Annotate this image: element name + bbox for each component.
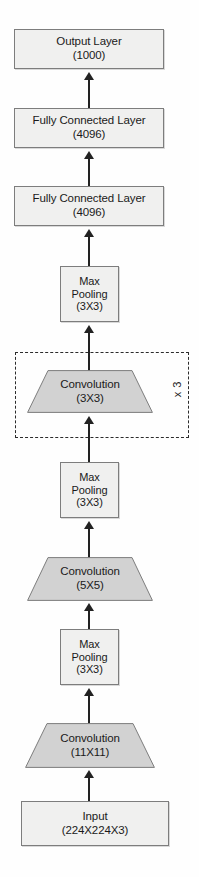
node-max-pooling-1-line1: Max xyxy=(79,638,99,651)
node-max-pooling-2-line2: Pooling xyxy=(72,484,108,497)
node-convolution-3x3: Convolution (3X3) xyxy=(27,370,153,413)
arrow-pool2-to-conv3 xyxy=(83,416,95,466)
arrow-input-to-conv1 xyxy=(83,770,95,802)
node-max-pooling-2: Max Pooling (3X3) xyxy=(60,462,119,518)
node-max-pooling-1: Max Pooling (3X3) xyxy=(60,629,119,685)
node-convolution-5x5-line1: Convolution xyxy=(60,565,120,579)
node-fully-connected-2: Fully Connected Layer (4096) xyxy=(14,108,164,148)
node-convolution-11x11: Convolution (11X11) xyxy=(25,723,155,768)
node-fully-connected-1-line2: (4096) xyxy=(73,206,106,220)
node-convolution-5x5: Convolution (5X5) xyxy=(27,557,153,601)
node-fully-connected-2-line1: Fully Connected Layer xyxy=(33,114,146,128)
node-convolution-11x11-line2: (11X11) xyxy=(71,746,110,760)
arrow-conv2-to-pool2 xyxy=(83,521,95,558)
node-fully-connected-1-line1: Fully Connected Layer xyxy=(33,192,146,206)
arrow-stem xyxy=(88,695,90,724)
arrow-pool3-to-fc1 xyxy=(83,229,95,266)
node-output-layer-line1: Output Layer xyxy=(56,35,121,49)
cnn-architecture-diagram: Output Layer (1000) Fully Connected Laye… xyxy=(0,0,199,877)
arrow-stem xyxy=(88,332,90,371)
arrow-stem xyxy=(88,79,90,108)
node-convolution-5x5-line2: (5X5) xyxy=(76,579,104,593)
arrow-conv1-to-pool1 xyxy=(83,688,95,724)
node-output-layer: Output Layer (1000) xyxy=(14,29,164,69)
node-max-pooling-1-line3: (3X3) xyxy=(76,663,102,676)
node-fully-connected-2-line2: (4096) xyxy=(73,128,106,142)
arrow-fc2-to-output xyxy=(83,72,95,108)
node-convolution-11x11-line1: Convolution xyxy=(60,732,120,746)
node-max-pooling-2-line3: (3X3) xyxy=(76,496,102,509)
arrow-stem xyxy=(88,423,90,466)
node-max-pooling-1-line2: Pooling xyxy=(72,651,108,664)
arrow-conv3-to-pool3 xyxy=(83,325,95,371)
node-max-pooling-3-line2: Pooling xyxy=(72,288,108,301)
node-max-pooling-3-line3: (3X3) xyxy=(76,300,102,313)
node-input-line2: (224X224X3) xyxy=(62,824,129,838)
node-input: Input (224X224X3) xyxy=(21,801,169,846)
arrow-fc1-to-fc2 xyxy=(83,151,95,186)
arrow-stem xyxy=(88,528,90,558)
node-input-line1: Input xyxy=(82,810,107,824)
node-max-pooling-3-line1: Max xyxy=(79,275,99,288)
node-max-pooling-2-line1: Max xyxy=(79,471,99,484)
node-fully-connected-1: Fully Connected Layer (4096) xyxy=(14,186,164,226)
arrow-stem xyxy=(88,236,90,266)
node-convolution-3x3-line1: Convolution xyxy=(60,378,120,392)
arrow-stem xyxy=(88,777,90,802)
arrow-stem xyxy=(88,158,90,186)
node-max-pooling-3: Max Pooling (3X3) xyxy=(60,266,119,322)
node-convolution-3x3-line2: (3X3) xyxy=(76,392,104,406)
node-output-layer-line2: (1000) xyxy=(73,49,106,63)
repeat-group-label: x 3 xyxy=(171,381,183,397)
